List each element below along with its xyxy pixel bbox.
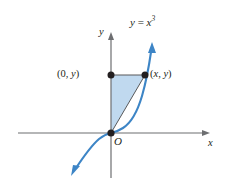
x-axis-label: x: [208, 138, 213, 149]
curve-equation-exponent: 3: [152, 14, 156, 23]
x-axis-arrowhead-icon: [202, 130, 210, 136]
point-label-zero-y-close: ): [76, 68, 80, 79]
graph-canvas: [0, 0, 226, 194]
y-axis-arrowhead-icon: [108, 32, 114, 40]
curve-lower-arrowhead-icon: [71, 165, 80, 176]
point-label-zero-y: (0, y): [57, 69, 79, 80]
point-label-zero-y-open: (0: [57, 68, 66, 79]
point-label-x-y-close: ): [168, 68, 172, 79]
point-label-x-y: (x, y): [150, 69, 172, 80]
curve-equation-equals: =: [135, 16, 147, 28]
point-marker-x-y: [142, 72, 149, 79]
cubic-function-figure: y = x3 (0, y) (x, y) O x y: [0, 0, 226, 194]
curve-upper-arrowhead-icon: [148, 42, 156, 53]
y-axis-label: y: [99, 27, 104, 38]
origin-label: O: [114, 136, 122, 147]
point-marker-zero-y: [108, 72, 115, 79]
curve-equation-label: y = x3: [130, 15, 155, 28]
